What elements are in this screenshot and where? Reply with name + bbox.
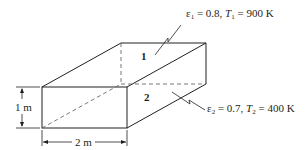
surface-2-number: 2 — [144, 91, 150, 103]
surface-1-leader — [155, 25, 181, 55]
surface-2-leader — [172, 92, 205, 110]
surface-2-label: ε2 = 0.7, T2 = 400 K — [207, 102, 295, 116]
bottom-right-edge — [127, 84, 206, 128]
surface-1-number: 1 — [141, 50, 147, 62]
top-right-edge — [127, 43, 206, 87]
height-label: 1 m — [15, 101, 32, 113]
front-face — [42, 87, 127, 128]
box-diagram: 1 2 ε1 = 0.8, T1 = 900 K ε2 = 0.7, T2 = … — [0, 0, 308, 150]
width-label: 2 m — [75, 136, 92, 148]
top-left-edge — [42, 43, 121, 87]
hidden-bottom-left-edge — [42, 84, 121, 128]
surface-1-label: ε1 = 0.8, T1 = 900 K — [186, 7, 274, 21]
